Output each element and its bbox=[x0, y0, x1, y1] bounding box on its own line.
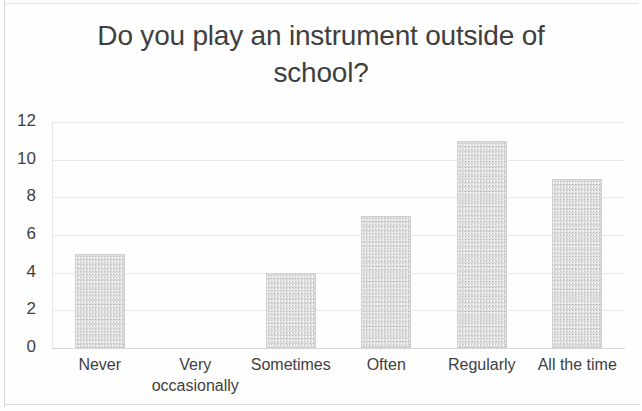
gridline-10 bbox=[52, 160, 625, 161]
gridline-12 bbox=[52, 122, 625, 123]
page-border-bottom bbox=[4, 404, 640, 405]
y-tick-label: 12 bbox=[0, 111, 36, 131]
y-tick-label: 6 bbox=[0, 224, 36, 244]
x-tick-label: All the time bbox=[524, 354, 632, 375]
y-tick-label: 0 bbox=[0, 337, 36, 357]
gridline-4 bbox=[52, 273, 625, 274]
bar bbox=[361, 216, 411, 348]
bar bbox=[552, 179, 602, 349]
gridline-6 bbox=[52, 235, 625, 236]
x-tick-label: Often bbox=[333, 354, 441, 375]
x-tick-label: Very occasionally bbox=[142, 354, 250, 396]
bar bbox=[75, 254, 125, 348]
gridline-0 bbox=[52, 348, 625, 349]
page-border-top bbox=[4, 3, 638, 4]
gridline-8 bbox=[52, 197, 625, 198]
bar bbox=[457, 141, 507, 348]
y-tick-label: 4 bbox=[0, 262, 36, 282]
x-tick-label: Never bbox=[46, 354, 154, 375]
y-tick-label: 10 bbox=[0, 149, 36, 169]
x-tick-label: Regularly bbox=[428, 354, 536, 375]
bar bbox=[266, 273, 316, 348]
chart-screenshot: Do you play an instrument outside of sch… bbox=[0, 0, 642, 411]
gridline-2 bbox=[52, 310, 625, 311]
y-tick-label: 8 bbox=[0, 186, 36, 206]
plot-area bbox=[52, 122, 625, 348]
y-tick-label: 2 bbox=[0, 299, 36, 319]
x-tick-label: Sometimes bbox=[237, 354, 345, 375]
chart-title: Do you play an instrument outside of sch… bbox=[40, 17, 602, 91]
